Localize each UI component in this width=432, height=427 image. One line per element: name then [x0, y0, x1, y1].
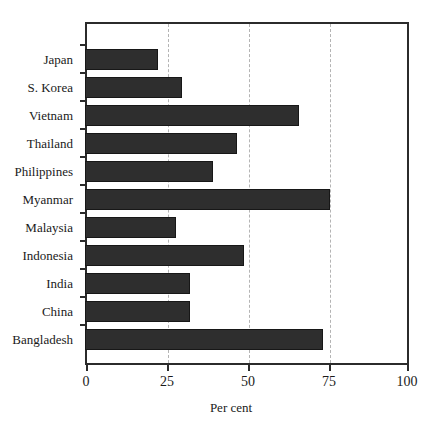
bar-japan [85, 49, 158, 70]
bar-row [85, 273, 190, 294]
y-axis-label: Indonesia [22, 245, 73, 266]
x-axis-tick-label: 25 [160, 374, 174, 390]
bar-china [85, 301, 190, 322]
bar-row [85, 301, 190, 322]
x-axis-tick [407, 365, 409, 371]
bar-india [85, 273, 190, 294]
y-axis-label: Thailand [27, 133, 73, 154]
bar-philippines [85, 161, 213, 182]
bar-row [85, 245, 244, 266]
bar-malaysia [85, 217, 176, 238]
y-axis-labels: Japan S. Korea Vietnam Thailand Philippi… [0, 22, 80, 365]
bar-bangladesh [85, 329, 323, 350]
bar-row [85, 49, 158, 70]
x-axis-tick-label: 75 [322, 374, 336, 390]
x-axis-tick-label: 100 [397, 374, 418, 390]
bar-chart: Japan S. Korea Vietnam Thailand Philippi… [0, 0, 432, 427]
y-axis-label: S. Korea [28, 77, 74, 98]
y-axis-label: China [42, 301, 73, 322]
bar-row [85, 217, 176, 238]
y-axis-label: Vietnam [29, 105, 73, 126]
y-axis-label: Myanmar [22, 189, 73, 210]
x-axis-title-text: Per cent [210, 400, 252, 416]
y-axis-label: Bangladesh [12, 329, 73, 350]
bar-row [85, 133, 237, 154]
bar-row [85, 161, 213, 182]
bar-myanmar [85, 189, 330, 210]
bar-thailand [85, 133, 237, 154]
x-axis-tick [329, 365, 331, 371]
bar-s-korea [85, 77, 182, 98]
x-axis-tick [86, 365, 88, 371]
x-axis-tick-label: 0 [83, 374, 90, 390]
x-axis-tick-label: 50 [241, 374, 255, 390]
bar-row [85, 189, 330, 210]
y-axis-label: Malaysia [25, 217, 73, 238]
bar-row [85, 105, 299, 126]
y-axis-label: India [46, 273, 73, 294]
bar-vietnam [85, 105, 299, 126]
bars-layer [85, 22, 409, 365]
x-axis-title: Per cent [0, 400, 432, 416]
bar-indonesia [85, 245, 244, 266]
bar-row [85, 329, 323, 350]
x-axis-tick [248, 365, 250, 371]
x-axis-tick [167, 365, 169, 371]
y-axis-label: Philippines [14, 161, 73, 182]
bar-row [85, 77, 182, 98]
y-axis-label: Japan [43, 49, 73, 70]
